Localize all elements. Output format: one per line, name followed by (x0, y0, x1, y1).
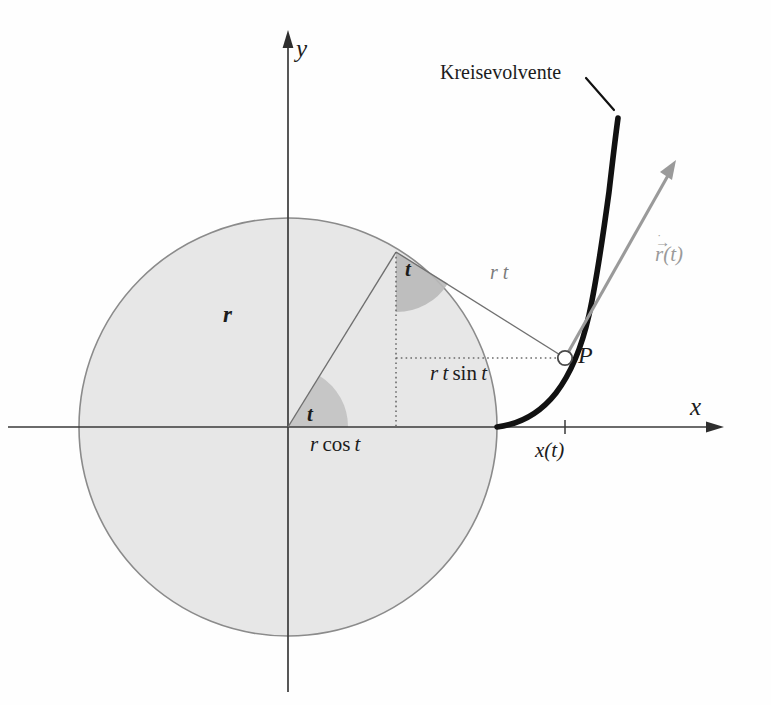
rtsint-sin: sin (448, 361, 477, 385)
rcost-r: r (310, 432, 318, 456)
involute-curve-label: Kreisevolvente (440, 62, 561, 82)
angle-label-tangent: t (405, 259, 411, 280)
involute-curve (497, 118, 618, 427)
point-p-label: P (578, 343, 593, 367)
radius-label: r (223, 303, 232, 326)
velocity-vector-arrowhead (660, 160, 676, 180)
velocity-vector-label: ˙ → r (t) (655, 244, 683, 265)
y-axis-label: y (296, 36, 307, 61)
rtsint-r: r (430, 361, 438, 385)
horizontal-component-label: r cos t (310, 434, 360, 455)
rtsint-t2: t (477, 361, 487, 385)
x-axis-label: x (690, 394, 701, 419)
rcost-t: t (350, 432, 360, 456)
curve-label-leader (586, 78, 614, 110)
velocity-vector-symbol: ˙ → r (655, 244, 663, 265)
vertical-component-label: r t sin t (430, 363, 487, 384)
diagram-canvas (0, 0, 771, 705)
x-coordinate-label: x(t) (535, 440, 564, 461)
involute-diagram: y x Kreisevolvente r r t r t sin t r cos… (0, 0, 771, 705)
tangent-length-label: r t (490, 262, 508, 282)
x-axis-arrowhead (706, 422, 724, 433)
rcost-cos: cos (318, 432, 350, 456)
angle-label-origin: t (307, 404, 313, 425)
y-axis-arrowhead (283, 30, 294, 48)
rtsint-t: t (438, 361, 448, 385)
point-p-marker (558, 351, 572, 365)
velocity-arrow-accent: → (655, 235, 663, 250)
